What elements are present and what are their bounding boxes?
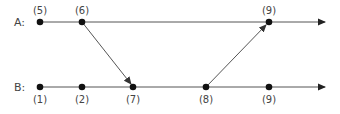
event-a-6 [79,19,86,26]
event-b-9 [266,84,273,91]
event-a-5-label: (5) [33,5,47,16]
message-b8-to-a9 [206,25,266,87]
process-a-label: A: [14,16,25,29]
event-b-2 [79,84,86,91]
event-a-5 [37,19,44,26]
event-b-1-label: (1) [33,94,47,105]
event-b-7 [130,84,137,91]
event-b-2-label: (2) [75,94,89,105]
event-b-8-label: (8) [199,94,213,105]
process-b-label: B: [14,81,25,94]
event-a-9 [266,19,273,26]
event-b-9-label: (9) [262,94,276,105]
event-a-9-label: (9) [262,5,276,16]
space-time-diagram: A: B: (5) (6) (9) (1) (2) (7) (8) (9) [0,0,340,114]
message-a6-to-b7 [82,22,131,84]
event-a-6-label: (6) [75,5,89,16]
event-b-1 [37,84,44,91]
event-b-8 [203,84,210,91]
event-b-7-label: (7) [126,94,140,105]
